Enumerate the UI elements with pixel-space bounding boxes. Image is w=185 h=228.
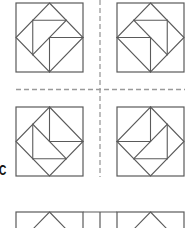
quilt-pattern-diagram [0, 0, 185, 228]
quilt-block-bottom-right [117, 212, 184, 228]
quilt-block-middle-right [117, 107, 184, 176]
quilt-block-middle-left [16, 107, 83, 176]
quilt-block-bottom-left [16, 212, 83, 228]
quilt-block-top-right [117, 3, 184, 72]
quilt-block-top-left [16, 3, 83, 72]
figure-label: C [0, 163, 6, 177]
